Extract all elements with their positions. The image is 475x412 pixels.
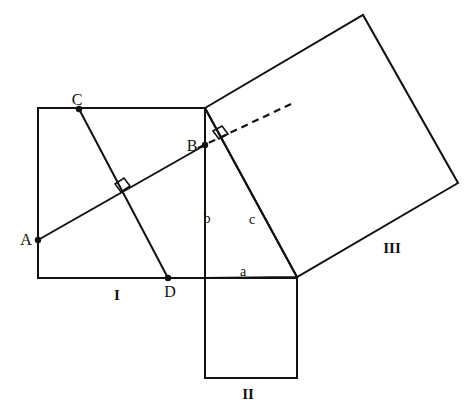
side-label-b: b [204,212,211,226]
geometry-figure: A B C D a b c I II III [0,0,475,412]
region-label-two: II [242,387,254,402]
vertex-label-b: B [187,138,198,154]
square-two-outline [205,278,297,378]
point-a-dot [35,237,41,243]
point-b-dot [202,142,208,148]
dashed-perpendicular-line [198,104,291,148]
vertex-label-a: A [20,232,32,248]
vertex-label-d: D [164,284,176,300]
region-label-one: I [114,288,120,303]
right-triangle-outline [205,108,297,278]
square-three-outline [205,15,458,277]
region-label-three: III [383,241,401,256]
vertex-label-c: C [72,92,83,108]
line-segment-cd [79,109,168,278]
figure-canvas [0,0,475,412]
side-label-c: c [249,213,255,227]
point-d-dot [165,275,171,281]
side-label-a: a [240,265,246,279]
